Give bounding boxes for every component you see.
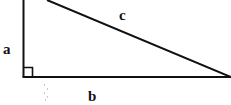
right-angle-marker bbox=[24, 68, 33, 78]
right-triangle-diagram: a c b bbox=[0, 0, 231, 105]
label-a: a bbox=[3, 41, 11, 57]
label-c: c bbox=[119, 7, 126, 23]
scan-artifact bbox=[44, 84, 48, 101]
label-b: b bbox=[88, 88, 96, 104]
hypotenuse-c-line bbox=[47, 0, 231, 77]
